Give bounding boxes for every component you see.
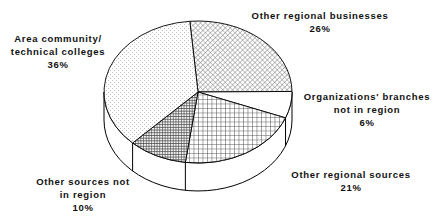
slice-label-line: not in region bbox=[296, 103, 438, 116]
pie-chart-figure: Other regional businesses 26% Organizati… bbox=[0, 0, 439, 216]
pie-slices bbox=[104, 21, 292, 163]
slice-label-line: Other sources not bbox=[26, 175, 140, 188]
slice-value: 10% bbox=[26, 201, 140, 214]
slice-label-line: Organizations' branches bbox=[296, 90, 438, 103]
slice-label-line: in region bbox=[26, 188, 140, 201]
slice-label-area-community-technical-colleges: Area community/ technical colleges 36% bbox=[2, 32, 114, 71]
slice-label-organizations-branches: Organizations' branches not in region 6% bbox=[296, 90, 438, 129]
slice-label-line: technical colleges bbox=[2, 45, 114, 58]
slice-value: 26% bbox=[240, 22, 400, 35]
slice-value: 21% bbox=[277, 181, 425, 194]
slice-label-other-sources-not-in-region: Other sources not in region 10% bbox=[26, 175, 140, 214]
slice-label-line: Other regional businesses bbox=[240, 9, 400, 22]
slice-label-other-regional-businesses: Other regional businesses 26% bbox=[240, 9, 400, 35]
slice-value: 36% bbox=[2, 58, 114, 71]
slice-value: 6% bbox=[296, 116, 438, 129]
slice-label-line: Area community/ bbox=[2, 32, 114, 45]
slice-label-other-regional-sources: Other regional sources 21% bbox=[277, 168, 425, 194]
slice-label-line: Other regional sources bbox=[277, 168, 425, 181]
